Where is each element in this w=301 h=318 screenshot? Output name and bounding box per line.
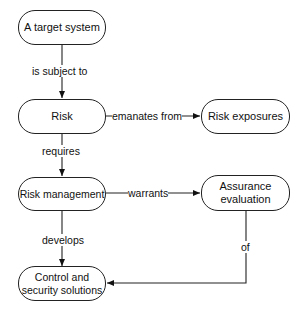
node-label: A target system [24,21,100,34]
edge-label-requires: requires [42,145,80,157]
node-label: Assurance [220,180,272,193]
node-risk-exposures: Risk exposures [201,99,290,134]
edge-label-emanates: emanates from [112,110,182,122]
edge-label-subject: is subject to [32,65,87,77]
edge-label-of: of [241,241,250,253]
node-risk: Risk [18,99,106,134]
node-target-system: A target system [18,10,106,45]
edge-label-warrants: warrants [128,187,168,199]
node-risk-management: Risk management [18,177,106,211]
node-label: Risk management [20,188,105,201]
node-assurance-evaluation: Assurance evaluation [201,175,290,211]
node-label: Risk exposures [208,110,283,123]
edge-label-develops: develops [42,234,84,246]
node-label: Control and [35,271,89,284]
node-control-security-solutions: Control and security solutions [18,266,106,301]
node-label: security solutions [22,284,103,297]
node-label: Risk [51,110,72,123]
node-label: evaluation [220,193,270,206]
